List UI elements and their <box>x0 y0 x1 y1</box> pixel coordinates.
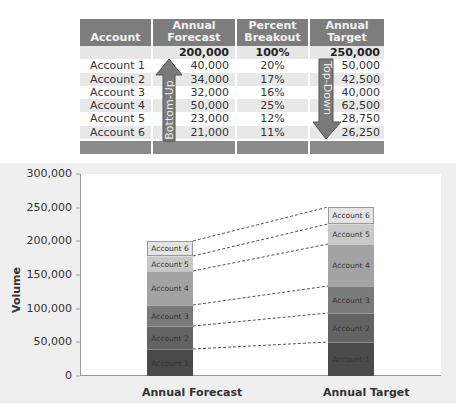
target-segment-account-2: Account 2 <box>328 313 374 342</box>
forecast-segment-account-3: Account 3 <box>147 305 193 326</box>
target-segment-account-3: Account 3 <box>328 286 374 313</box>
forecast-segment-account-2: Account 2 <box>147 326 193 349</box>
chart-lines <box>0 0 465 413</box>
target-segment-account-6: Account 6 <box>328 207 374 224</box>
forecast-segment-account-6: Account 6 <box>147 241 193 256</box>
dashed-connectors <box>193 207 328 349</box>
target-segment-account-1: Account 1 <box>328 342 374 376</box>
forecast-segment-account-1: Account 1 <box>147 349 193 376</box>
x-category-forecast: Annual Forecast <box>142 386 242 399</box>
x-category-target: Annual Target <box>323 386 410 399</box>
forecast-segment-account-5: Account 5 <box>147 256 193 271</box>
forecast-segment-account-4: Account 4 <box>147 271 193 305</box>
target-segment-account-4: Account 4 <box>328 244 374 286</box>
target-segment-account-5: Account 5 <box>328 224 374 244</box>
